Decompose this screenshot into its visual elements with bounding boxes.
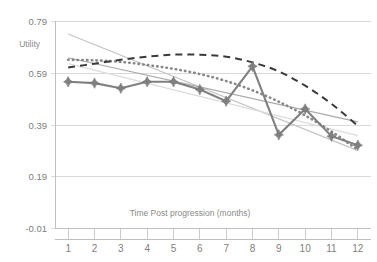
x-tick-label-9: 10 — [300, 243, 312, 254]
x-tick-label-11: 12 — [352, 243, 364, 254]
observed-series-markers — [64, 61, 363, 150]
x-axis-title: Time Post progression (months) — [130, 208, 251, 218]
y-axis-title: Utility — [19, 39, 41, 49]
x-tick-label-7: 8 — [250, 243, 256, 254]
utility-over-time-chart: 0.790.590.390.19-0.01 123456789101112 Ut… — [0, 0, 377, 262]
fitted-curves-group — [68, 54, 358, 149]
data-point-marker — [143, 77, 152, 87]
chart-plot-area: 0.790.590.390.19-0.01 123456789101112 Ut… — [0, 0, 377, 262]
y-tick-label-2: 0.39 — [29, 120, 48, 131]
x-tick-label-3: 4 — [144, 243, 150, 254]
x-axis-tick-labels: 123456789101112 — [65, 243, 363, 254]
x-tick-label-2: 3 — [118, 243, 124, 254]
x-tick-label-8: 9 — [276, 243, 282, 254]
shallow-linear-trend — [68, 58, 358, 122]
y-tick-label-4: -0.01 — [25, 223, 47, 234]
x-tick-label-4: 5 — [171, 243, 177, 254]
x-tick-label-0: 1 — [65, 243, 71, 254]
y-tick-label-3: 0.19 — [29, 171, 48, 182]
gridlines — [51, 21, 371, 229]
y-tick-label-0: 0.79 — [29, 16, 48, 27]
data-point-marker — [64, 77, 73, 87]
x-axis-line — [55, 229, 371, 240]
data-point-marker — [116, 83, 125, 93]
x-tick-label-5: 6 — [197, 243, 203, 254]
y-tick-label-1: 0.59 — [29, 68, 48, 79]
lower-linear-trend — [68, 64, 358, 136]
x-tick-label-10: 11 — [326, 243, 337, 254]
x-tick-label-6: 7 — [223, 243, 229, 254]
data-point-marker — [90, 78, 99, 88]
x-tick-label-1: 2 — [92, 243, 98, 254]
